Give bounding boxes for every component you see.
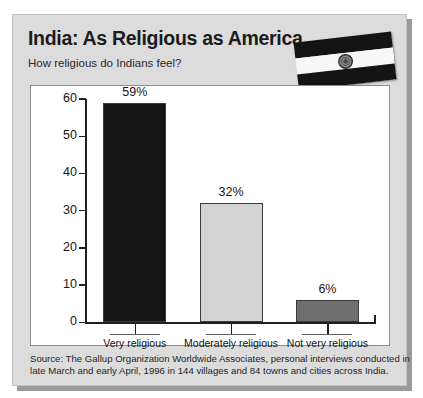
y-axis-tick xyxy=(79,98,86,99)
source-note: Source: The Gallup Organization Worldwid… xyxy=(30,353,395,377)
bar xyxy=(103,103,166,323)
x-axis-tick-underline xyxy=(110,334,160,335)
card-header: India: As Religious as America How relig… xyxy=(13,15,406,85)
y-axis-tick xyxy=(79,173,86,174)
y-axis-tick-label: 0 xyxy=(31,314,77,328)
y-axis-tick xyxy=(79,284,86,285)
y-axis-tick xyxy=(79,210,86,211)
chart-plot-area: 0102030405060 59%32%6% Very religiousMod… xyxy=(30,85,390,346)
bar-value-label: 6% xyxy=(287,282,367,296)
y-axis-tick-label: 60 xyxy=(31,91,77,105)
y-axis-tick-label: 30 xyxy=(31,203,77,217)
bar xyxy=(200,203,263,322)
y-axis-tick-label: 10 xyxy=(31,277,77,291)
flag-graphic xyxy=(294,32,397,91)
page-title: India: As Religious as America xyxy=(28,27,303,50)
x-axis-category-label: Not very religious xyxy=(267,337,387,349)
chart-card: India: As Religious as America How relig… xyxy=(12,14,407,386)
chart-subtitle: How religious do Indians feel? xyxy=(28,57,181,69)
bars-container: 59%32%6% xyxy=(87,99,376,322)
x-axis-tick-underline xyxy=(302,334,352,335)
india-flag-icon xyxy=(290,27,400,89)
bar-value-label: 59% xyxy=(95,85,175,99)
y-axis-tick xyxy=(79,322,86,323)
source-line-1: Source: The Gallup Organization Worldwid… xyxy=(30,353,395,365)
y-axis-tick-label: 40 xyxy=(31,165,77,179)
y-axis-tick xyxy=(79,136,86,137)
x-axis-tick-underline xyxy=(206,334,256,335)
y-axis-tick xyxy=(79,247,86,248)
bar-value-label: 32% xyxy=(191,185,271,199)
bar xyxy=(296,300,359,322)
source-line-2: late March and early April, 1996 in 144 … xyxy=(30,365,395,377)
y-axis-tick-label: 50 xyxy=(31,128,77,142)
y-axis-tick-label: 20 xyxy=(31,240,77,254)
